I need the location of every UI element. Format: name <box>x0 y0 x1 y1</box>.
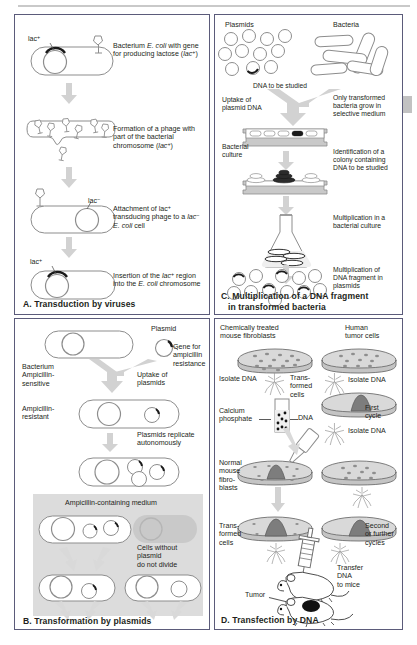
panel-b-replicate-caption: Plasmids replicateautonomously <box>137 431 203 448</box>
panel-c-only-transformed-caption: Only transformed bacteria grow in select… <box>333 94 395 118</box>
panel-a-step3-graphic <box>25 187 125 237</box>
panel-c-plasmids-label: Plasmids <box>225 21 254 29</box>
panel-d-transformed-cells-top: Trans-formedcells <box>290 374 320 399</box>
panel-a-lac-minus-label: lac− <box>88 197 100 205</box>
panel-d-transfer-mice-label: TransferDNAto mice <box>337 564 383 589</box>
panel-b-title: B. Transformation by plasmids <box>23 616 152 627</box>
panel-a-title: A. Transduction by viruses <box>23 299 135 310</box>
panel-b-bacterium-label: Bacterium Ampicillin-sensitive <box>22 363 78 388</box>
panel-d-tumor-label: Tumor <box>245 591 265 599</box>
panel-c-tray-2 <box>241 169 329 195</box>
panel-c-title: C. Multiplication of a DNA fragment in t… <box>221 291 401 312</box>
panel-d-isolate-dna-left: Isolate DNA <box>219 375 257 383</box>
panel-c-bacteria-rods <box>313 30 399 82</box>
panel-b-plasmid-label: Plasmid <box>151 325 176 333</box>
panel-a-lac-plus-label-2: lac+ <box>30 258 42 266</box>
panel-a-transduction: lac+ Bacterium E. coli with gene for pro… <box>14 14 210 315</box>
panel-a-arrow-2 <box>60 167 78 189</box>
panel-d-calcium-phosphate-label: Calciumphosphate <box>219 407 263 424</box>
panel-d-dnaweb-1 <box>265 373 287 397</box>
panel-d-dnaweb-3 <box>325 423 347 447</box>
panel-b-daughter-cell-2 <box>123 572 205 604</box>
panel-b-resistant-label: Ampicillin-resistant <box>22 405 78 422</box>
panel-a-step3-caption: Attachment of lac+ transducing phage to … <box>113 205 205 230</box>
panel-b-uptake-caption: Uptake ofplasmids <box>137 371 195 388</box>
panel-b-daughter-cell-1 <box>37 572 119 604</box>
panel-b-cell-with-plasmid-1 <box>37 513 137 547</box>
panel-b-gene-label: Gene for ampicillin resistance <box>173 343 211 368</box>
figure-page: lac+ Bacterium E. coli with gene for pro… <box>0 0 417 645</box>
panel-a-lac-plus-label-1: lac+ <box>28 35 40 43</box>
panel-d-isolate-dna-right: Isolate DNA <box>348 376 386 384</box>
panel-c-multiplication-plasmids-caption: Multiplication of DNA fragment in plasmi… <box>333 266 395 290</box>
panel-c-flask <box>261 214 313 268</box>
top-rule <box>18 5 410 7</box>
panel-d-transformed-cells-bottom: Trans-formedcells <box>219 522 253 547</box>
panel-c-bacteria-label: Bacteria <box>333 21 359 29</box>
panel-d-second-cycles-label: Secondor furthercycles <box>365 522 403 547</box>
panel-c-plasmid-cloud <box>219 30 305 82</box>
panel-b-cell-without-plasmid-ring <box>135 515 195 545</box>
panel-a-step2-caption: Formation of a phage with part of the ba… <box>113 125 205 150</box>
panel-c-multiplication-culture-caption: Multiplication in a bacterial culture <box>333 214 395 230</box>
panel-d-arrow-left-down <box>271 487 285 513</box>
panel-a-step4-graphic <box>25 261 125 303</box>
panel-b-bacterium-resistant <box>77 397 185 433</box>
panel-b-bacterium-replicated <box>77 455 185 491</box>
panel-b-medium-label: Ampicillin-containing medium <box>65 499 157 507</box>
panel-b-arrow-1 <box>101 433 119 453</box>
panel-d-first-cycle-label: Firstcycle <box>365 404 397 421</box>
panel-b-bacterium-sensitive <box>43 327 139 361</box>
panel-a-arrow-1 <box>60 83 78 105</box>
panel-d-isolate-dna-mid: Isolate DNA <box>348 427 386 435</box>
panel-d-dna-label: DNA <box>298 414 313 422</box>
panel-c-multiplication: Plasmids Bacteria DNA to be studied <box>214 14 403 315</box>
panel-c-arrow-1 <box>277 151 295 171</box>
panel-b-divide-arrows-1 <box>53 549 123 573</box>
panel-a-arrow-3 <box>60 237 78 259</box>
panel-b-transformation: Plasmid Gene for ampicillin resistance B… <box>14 318 210 630</box>
panel-d-chem-treated-label: Chemically treatedmouse fibroblasts <box>220 324 305 341</box>
panel-b-no-plasmid-caption: Cells withoutplasmiddo not divide <box>137 544 203 569</box>
panel-d-title: D. Transfection by DNA <box>221 615 319 626</box>
panel-d-transfection: Chemically treatedmouse fibroblasts Huma… <box>214 318 403 630</box>
panel-d-human-tumor-label: Humantumor cells <box>345 324 401 341</box>
panel-a-step2-graphic <box>25 107 125 167</box>
panel-d-dna-leader <box>290 419 298 420</box>
panel-c-identification-caption: Identification of a colony containing DN… <box>333 148 395 172</box>
panel-c-bacterial-culture-caption: Bacterial culture <box>222 143 270 159</box>
panel-d-normal-fibroblasts-label: Normalmousefibro-blasts <box>219 459 255 493</box>
panel-c-uptake-caption: Uptake of plasmid DNA <box>222 96 274 112</box>
panel-d-calcium-leader <box>259 419 271 420</box>
panel-d-dnaweb-4 <box>353 487 375 513</box>
panel-a-step4-caption: Insertion of the lac+ region into the E.… <box>113 272 205 289</box>
panel-c-arrow-2 <box>277 196 295 216</box>
panel-a-step1-caption: Bacterium E. coli with gene for producin… <box>113 42 205 59</box>
